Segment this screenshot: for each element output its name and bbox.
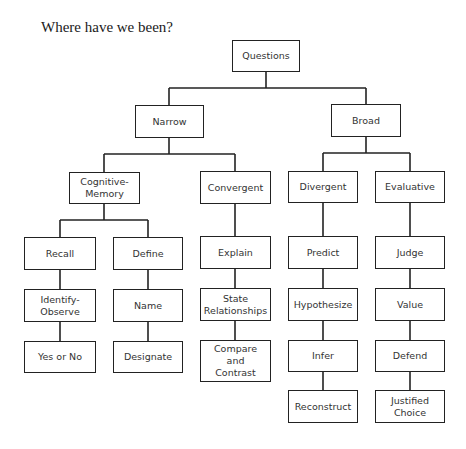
node-yes-or-no: Yes or No [24, 341, 96, 373]
node-designate: Designate [113, 341, 183, 373]
node-define: Define [113, 237, 183, 270]
node-state-relationships: State Relationships [200, 288, 271, 321]
node-divergent: Divergent [288, 171, 358, 203]
node-broad: Broad [331, 104, 401, 137]
node-recall: Recall [24, 237, 96, 270]
node-value: Value [375, 288, 445, 321]
node-reconstruct: Reconstruct [288, 390, 358, 423]
node-identify-observe: Identify- Observe [24, 289, 96, 322]
node-judge: Judge [375, 236, 445, 269]
node-evaluative: Evaluative [375, 171, 445, 203]
node-compare-and-contrast: Compare and Contrast [200, 340, 271, 382]
node-narrow: Narrow [135, 105, 204, 138]
node-convergent: Convergent [200, 171, 271, 204]
node-hypothesize: Hypothesize [288, 288, 358, 321]
node-predict: Predict [288, 236, 358, 269]
node-defend: Defend [375, 340, 445, 372]
node-cognitive-memory: Cognitive- Memory [69, 172, 140, 204]
node-explain: Explain [200, 236, 271, 269]
node-justified-choice: Justified Choice [375, 390, 445, 423]
node-name: Name [113, 289, 183, 322]
node-infer: Infer [288, 340, 358, 372]
node-questions: Questions [232, 40, 300, 72]
